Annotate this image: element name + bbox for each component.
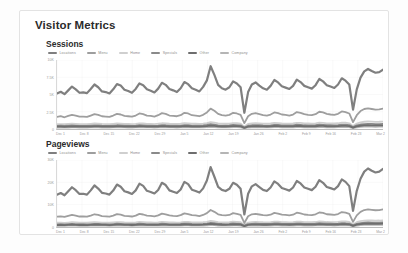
series-line-menu xyxy=(57,108,383,123)
x-tick-label: Jan 19 xyxy=(228,132,238,136)
legend-label-menu: Menu xyxy=(98,51,107,55)
x-tick-label: Jan 12 xyxy=(203,132,213,136)
legend-label-company: Company xyxy=(232,51,248,55)
legend-label-other: Other xyxy=(200,151,210,155)
legend-swatch-specials xyxy=(151,152,160,153)
x-tick-label: Dec 29 xyxy=(155,230,166,234)
legend-swatch-locations xyxy=(48,52,57,53)
x-tick-label: Feb 9 xyxy=(302,230,311,234)
section-title-sessions: Sessions xyxy=(46,39,83,49)
visitor-metrics-card: Visitor Metrics Sessions Locations Menu … xyxy=(19,10,389,235)
legend-swatch-specials xyxy=(151,52,160,53)
series-line-locations xyxy=(57,167,383,214)
legend-label-other: Other xyxy=(200,51,210,55)
x-tick-label: Dec 29 xyxy=(155,132,166,136)
legend-label-home: Home xyxy=(130,151,140,155)
x-axis-pageviews: Dec 1Dec 8Dec 15Dec 22Dec 29Jan 5Jan 12J… xyxy=(56,230,385,234)
legend-item-menu[interactable]: Menu xyxy=(87,51,108,55)
y-tick-label: 5K xyxy=(50,93,54,97)
y-tick-label: 7.5K xyxy=(46,76,54,80)
y-tick-label: 0 xyxy=(52,226,54,230)
legend-item-company[interactable]: Company xyxy=(220,51,248,55)
page-root: Visitor Metrics Sessions Locations Menu … xyxy=(0,0,408,253)
y-tick-label: 10K xyxy=(47,58,54,62)
x-tick-label: Feb 2 xyxy=(278,132,287,136)
series-line-locations xyxy=(57,66,383,113)
line-chart-pageviews xyxy=(57,160,383,227)
x-tick-label: Dec 15 xyxy=(103,230,114,234)
legend-label-locations: Locations xyxy=(60,151,76,155)
legend-swatch-other xyxy=(188,52,197,53)
legend-item-other[interactable]: Other xyxy=(188,151,209,155)
plot-area-sessions[interactable] xyxy=(56,60,383,130)
legend-swatch-company xyxy=(220,52,229,53)
x-tick-label: Jan 19 xyxy=(228,230,238,234)
y-tick-label: 0 xyxy=(52,128,54,132)
x-tick-label: Mar 2 xyxy=(376,230,385,234)
page-title: Visitor Metrics xyxy=(35,19,116,31)
legend-item-specials[interactable]: Specials xyxy=(151,51,177,55)
legend-item-specials[interactable]: Specials xyxy=(151,151,177,155)
plot-wrap-sessions: 02.5K5K7.5K10K xyxy=(40,60,385,130)
legend-swatch-menu xyxy=(87,152,96,153)
plot-area-pageviews[interactable] xyxy=(56,160,383,228)
x-tick-label: Jan 5 xyxy=(180,132,188,136)
x-tick-label: Jan 26 xyxy=(253,230,263,234)
legend-swatch-home xyxy=(119,52,128,53)
legend-item-locations[interactable]: Locations xyxy=(48,51,76,55)
legend-item-menu[interactable]: Menu xyxy=(87,151,108,155)
series-line-menu xyxy=(57,209,383,223)
x-tick-label: Feb 23 xyxy=(351,230,362,234)
legend-item-home[interactable]: Home xyxy=(119,51,141,55)
legend-item-other[interactable]: Other xyxy=(188,51,209,55)
legend-swatch-home xyxy=(119,152,128,153)
legend-pageviews: Locations Menu Home Specials Other xyxy=(48,151,248,155)
x-tick-label: Jan 12 xyxy=(203,230,213,234)
legend-swatch-locations xyxy=(48,152,57,153)
section-sessions: Sessions Locations Menu Home Specials xyxy=(20,39,390,137)
x-tick-label: Feb 9 xyxy=(302,132,311,136)
legend-item-company[interactable]: Company xyxy=(220,151,248,155)
legend-label-menu: Menu xyxy=(98,151,107,155)
plot-wrap-pageviews: 010K20K30K xyxy=(40,160,385,228)
legend-label-company: Company xyxy=(232,151,248,155)
x-tick-label: Jan 5 xyxy=(180,230,188,234)
x-tick-label: Feb 16 xyxy=(325,132,336,136)
legend-item-home[interactable]: Home xyxy=(119,151,141,155)
x-tick-label: Dec 8 xyxy=(80,132,89,136)
x-tick-label: Mar 2 xyxy=(376,132,385,136)
legend-label-home: Home xyxy=(130,51,140,55)
legend-swatch-other xyxy=(188,152,197,153)
x-tick-label: Feb 23 xyxy=(351,132,362,136)
y-tick-label: 30K xyxy=(47,158,54,162)
legend-swatch-company xyxy=(220,152,229,153)
x-tick-label: Dec 22 xyxy=(129,230,140,234)
line-chart-sessions xyxy=(57,60,383,129)
section-title-pageviews: Pageviews xyxy=(46,139,89,149)
x-tick-label: Dec 22 xyxy=(129,132,140,136)
x-tick-label: Dec 1 xyxy=(56,230,65,234)
y-tick-label: 20K xyxy=(47,181,54,185)
y-tick-label: 2.5K xyxy=(46,111,54,115)
y-axis-sessions: 02.5K5K7.5K10K xyxy=(40,60,55,130)
legend-label-specials: Specials xyxy=(163,151,177,155)
x-tick-label: Jan 26 xyxy=(253,132,263,136)
x-axis-sessions: Dec 1Dec 8Dec 15Dec 22Dec 29Jan 5Jan 12J… xyxy=(56,132,385,136)
x-tick-label: Dec 1 xyxy=(56,132,65,136)
section-pageviews: Pageviews Locations Menu Home Specials xyxy=(20,139,390,234)
legend-label-specials: Specials xyxy=(163,51,177,55)
x-tick-label: Feb 2 xyxy=(278,230,287,234)
legend-label-locations: Locations xyxy=(60,51,76,55)
x-tick-label: Dec 8 xyxy=(80,230,89,234)
legend-sessions: Locations Menu Home Specials Other xyxy=(48,51,248,55)
y-axis-pageviews: 010K20K30K xyxy=(40,160,55,228)
legend-swatch-menu xyxy=(87,52,96,53)
x-tick-label: Feb 16 xyxy=(325,230,336,234)
y-tick-label: 10K xyxy=(47,203,54,207)
legend-item-locations[interactable]: Locations xyxy=(48,151,76,155)
x-tick-label: Dec 15 xyxy=(103,132,114,136)
